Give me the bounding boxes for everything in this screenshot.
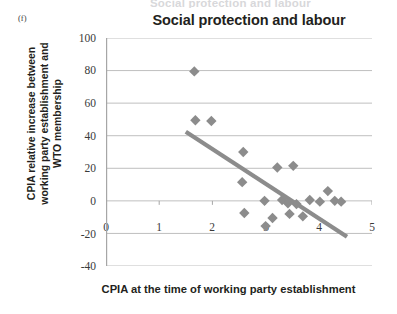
y-axis-title-line-3: WTO membership	[52, 79, 63, 168]
data-point-3[interactable]	[238, 147, 248, 157]
data-point-1[interactable]	[190, 115, 200, 125]
data-point-8[interactable]	[267, 213, 277, 223]
data-point-6[interactable]	[259, 196, 269, 206]
data-point-0[interactable]	[189, 66, 199, 76]
y-axis-title-line-1: CPIA relative increase between	[26, 47, 37, 200]
y-tick-100: 100	[62, 32, 96, 44]
figure-panel: Social protection and labour (f) Social …	[0, 0, 397, 314]
cut-off-header-text: Social protection and labour	[150, 0, 390, 8]
data-point-7[interactable]	[260, 221, 270, 231]
y-tick-20: 20	[62, 162, 96, 174]
plot-svg	[106, 38, 372, 266]
data-point-2[interactable]	[206, 116, 216, 126]
plot-area	[106, 38, 372, 266]
y-tick-neg40: -40	[62, 260, 96, 272]
data-point-13[interactable]	[288, 161, 298, 171]
data-point-9[interactable]	[272, 162, 282, 172]
y-tick-60: 60	[62, 97, 96, 109]
y-axis-title-line-2: working party establishment and	[39, 42, 50, 204]
chart-title: Social protection and labour	[104, 12, 394, 28]
y-tick-40: 40	[62, 130, 96, 142]
y-tick-80: 80	[62, 64, 96, 76]
y-axis-title: CPIA relative increase between working p…	[25, 11, 64, 237]
x-axis-title: CPIA at the time of working party establ…	[60, 283, 397, 295]
data-point-12[interactable]	[284, 209, 294, 219]
data-point-17[interactable]	[315, 196, 325, 206]
data-point-16[interactable]	[305, 195, 315, 205]
y-tick-neg20: -20	[62, 228, 96, 240]
data-point-4[interactable]	[237, 177, 247, 187]
data-point-20[interactable]	[336, 196, 346, 206]
y-tick-0: 0	[62, 195, 96, 207]
data-point-18[interactable]	[323, 186, 333, 196]
trendline	[186, 132, 347, 237]
data-point-5[interactable]	[239, 208, 249, 218]
